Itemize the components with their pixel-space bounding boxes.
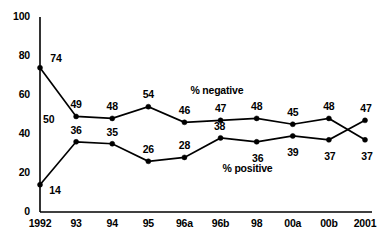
data-point-label: 54 — [133, 88, 163, 100]
data-point-marker — [290, 122, 295, 127]
data-point-label: 35 — [97, 126, 127, 138]
data-point-marker — [254, 139, 259, 144]
data-point-marker — [110, 116, 115, 121]
data-point-marker — [182, 155, 187, 160]
data-point-marker — [254, 116, 259, 121]
data-point-label: 14 — [40, 184, 70, 196]
data-point-label: 46 — [169, 104, 199, 116]
data-point-marker — [290, 133, 295, 138]
axis-value-note-50: 50 — [43, 113, 55, 125]
data-point-marker — [326, 137, 331, 142]
data-point-label: 47 — [351, 102, 381, 114]
y-tick-label: 0 — [4, 205, 30, 217]
data-point-label: 39 — [278, 146, 308, 158]
y-tick-label: 60 — [4, 88, 30, 100]
chart-canvas — [0, 0, 386, 241]
y-tick-label: 80 — [4, 49, 30, 61]
data-point-label: 37 — [352, 150, 382, 162]
line-chart: 020406080100 199293949596a96b9800a00b200… — [0, 0, 386, 241]
data-point-marker — [74, 139, 79, 144]
data-point-marker — [218, 135, 223, 140]
data-point-label: 38 — [205, 120, 235, 132]
data-point-label: 28 — [169, 139, 199, 151]
data-point-marker — [146, 104, 151, 109]
data-point-label: 26 — [133, 143, 163, 155]
data-point-marker — [363, 137, 368, 142]
data-point-marker — [110, 141, 115, 146]
y-tick-label: 40 — [4, 127, 30, 139]
data-point-marker — [38, 65, 43, 70]
data-point-marker — [146, 159, 151, 164]
data-point-label: 47 — [206, 102, 236, 114]
data-point-label: 48 — [97, 100, 127, 112]
data-point-marker — [74, 114, 79, 119]
data-point-label: 36 — [61, 124, 91, 136]
data-point-label: 74 — [41, 52, 71, 64]
y-tick-label: 100 — [4, 10, 30, 22]
data-point-label: 45 — [278, 106, 308, 118]
y-tick-label: 20 — [4, 166, 30, 178]
series-annotation-negative: % negative — [190, 84, 243, 96]
data-point-label: 37 — [315, 150, 345, 162]
data-point-marker — [182, 120, 187, 125]
data-point-label: 49 — [61, 98, 91, 110]
x-tick-label: 2001 — [342, 217, 386, 229]
data-point-label: 48 — [314, 100, 344, 112]
series-annotation-positive: % positive — [223, 162, 273, 174]
data-point-label: 48 — [242, 100, 272, 112]
data-point-marker — [326, 116, 331, 121]
data-point-marker — [363, 118, 368, 123]
